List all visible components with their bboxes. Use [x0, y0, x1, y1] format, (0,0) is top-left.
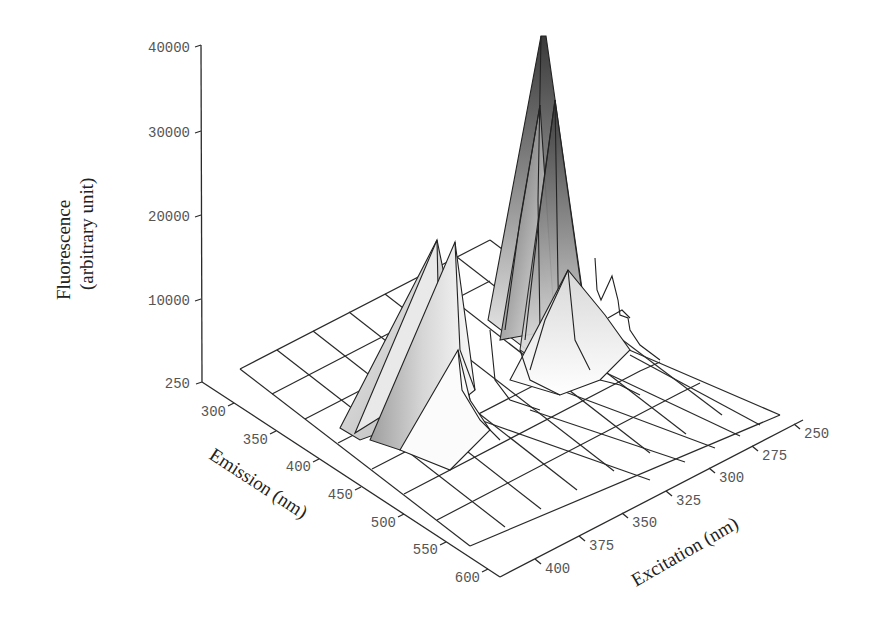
excitation-tick-400: 400 — [545, 561, 570, 577]
emission-tick-350: 350 — [243, 432, 268, 448]
excitation-axis: 400 375 350 325 300 275 250 Excitation (… — [500, 420, 829, 591]
z-tick-30000: 30000 — [148, 125, 190, 141]
emission-tick-300: 300 — [201, 404, 226, 420]
excitation-tick-325: 325 — [676, 493, 701, 509]
excitation-tick-375: 375 — [589, 538, 614, 554]
z-axis-title: Fluorescence (arbitrary unit) — [53, 178, 98, 300]
excitation-tick-350: 350 — [632, 515, 657, 531]
emission-tick-400: 400 — [286, 459, 311, 475]
z-tick-10000: 10000 — [148, 293, 190, 309]
emission-axis-title: Emission (nm) — [205, 444, 311, 524]
z-axis-title-line2: (arbitrary unit) — [76, 178, 98, 290]
z-axis-title-line1: Fluorescence — [53, 200, 74, 300]
fluorescence-3d-surface-chart: Fluorescence (arbitrary unit) 40000 3000… — [0, 0, 883, 623]
z-tick-20000: 20000 — [148, 209, 190, 225]
emission-tick-600: 600 — [455, 570, 480, 586]
emission-tick-450: 450 — [328, 487, 353, 503]
left-peaks — [340, 240, 490, 470]
z-axis: 40000 30000 20000 10000 250 — [148, 40, 202, 392]
excitation-tick-300: 300 — [719, 470, 744, 486]
z-tick-40000: 40000 — [148, 40, 190, 56]
emission-tick-500: 500 — [371, 515, 396, 531]
excitation-tick-250: 250 — [804, 426, 829, 442]
emission-tick-550: 550 — [413, 542, 438, 558]
excitation-tick-275: 275 — [762, 448, 787, 464]
z-tick-250: 250 — [165, 376, 190, 392]
